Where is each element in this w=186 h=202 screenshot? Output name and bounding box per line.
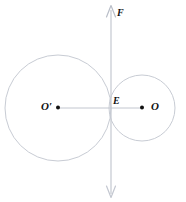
label-e: E: [113, 96, 120, 106]
point-dot-o: [140, 106, 144, 110]
label-o: O: [151, 101, 159, 112]
label-f: F: [117, 8, 124, 18]
geometry-figure: O′ E O F: [0, 0, 186, 202]
point-dot-o-prime: [56, 106, 60, 110]
label-o-prime: O′: [41, 101, 52, 112]
